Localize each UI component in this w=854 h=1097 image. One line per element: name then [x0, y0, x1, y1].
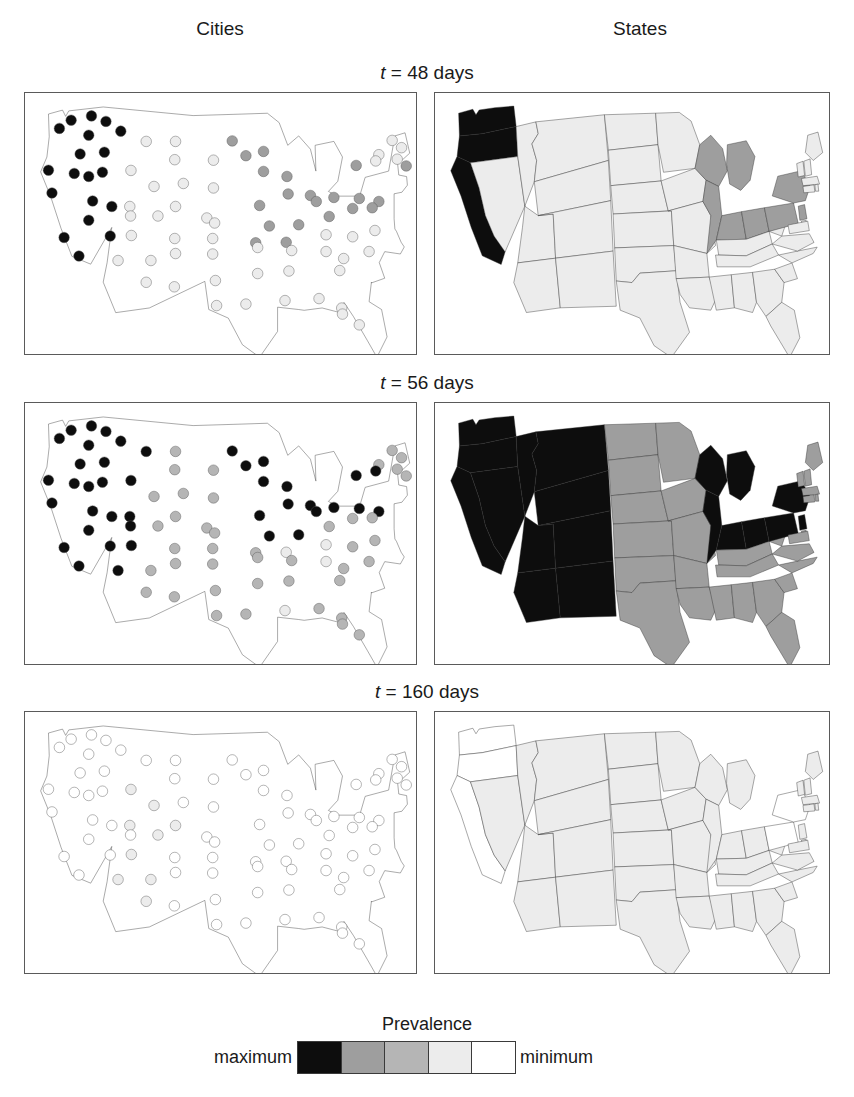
column-header-states: States: [540, 18, 740, 40]
state-nm: [556, 251, 617, 308]
city-marker: [207, 868, 218, 879]
city-marker: [211, 610, 222, 621]
city-marker: [282, 481, 293, 492]
city-marker: [69, 787, 80, 798]
city-marker: [153, 211, 164, 222]
city-marker: [178, 797, 189, 808]
city-marker: [367, 821, 378, 832]
city-marker: [264, 531, 275, 542]
us-outline: [41, 107, 410, 354]
city-marker: [329, 502, 340, 513]
state-va: [772, 234, 814, 251]
row-label-t56: t = 56 days: [0, 372, 854, 394]
legend-swatch-2: [342, 1042, 386, 1073]
us-cities-map: [25, 712, 416, 973]
city-marker: [401, 780, 412, 791]
city-marker: [87, 196, 98, 207]
city-marker: [99, 457, 110, 468]
city-marker: [208, 465, 219, 476]
city-marker: [210, 894, 221, 905]
state-ks: [613, 830, 674, 867]
state-vt: [797, 780, 805, 796]
state-nh: [804, 159, 812, 176]
city-marker: [105, 541, 116, 552]
city-marker: [74, 870, 85, 881]
map-panel-states-t48: [434, 92, 830, 355]
city-marker: [252, 887, 263, 898]
row-label-t160: t = 160 days: [0, 681, 854, 703]
city-marker: [354, 812, 365, 823]
city-marker: [141, 136, 152, 147]
legend-swatch-1: [298, 1042, 342, 1073]
city-marker: [252, 268, 263, 279]
state-me: [805, 751, 822, 779]
city-marker: [396, 142, 407, 153]
city-marker: [254, 510, 265, 521]
city-marker: [83, 525, 94, 536]
time-value-text: = 160 days: [380, 681, 479, 702]
city-marker: [169, 154, 180, 165]
city-marker: [99, 147, 110, 158]
city-marker: [178, 488, 189, 499]
city-marker: [367, 512, 378, 523]
city-marker: [370, 844, 381, 855]
city-marker: [227, 755, 238, 766]
city-marker: [321, 246, 332, 257]
city-marker: [101, 426, 112, 437]
us-states-map: [435, 403, 829, 664]
state-al: [731, 582, 756, 622]
city-marker: [208, 155, 219, 166]
city-marker: [210, 275, 221, 286]
state-ut: [518, 206, 556, 263]
state-mi: [727, 141, 755, 191]
city-marker: [86, 111, 97, 122]
figure-root: Cities States t = 48 days t = 56 days t …: [0, 0, 854, 1097]
city-marker: [241, 299, 252, 310]
city-marker: [258, 146, 269, 157]
state-mn: [656, 422, 700, 482]
city-marker: [227, 446, 238, 457]
city-marker: [252, 861, 263, 872]
city-marker: [209, 218, 220, 229]
city-marker: [367, 202, 378, 213]
city-marker: [116, 126, 127, 137]
city-marker: [116, 745, 127, 756]
city-marker: [324, 521, 335, 532]
city-marker: [324, 830, 335, 841]
city-marker: [280, 295, 291, 306]
city-marker: [284, 266, 295, 277]
city-marker: [252, 578, 263, 589]
state-ut: [518, 516, 556, 573]
city-marker: [207, 559, 218, 570]
state-sd: [608, 145, 661, 186]
city-marker: [338, 253, 349, 264]
city-marker: [311, 196, 322, 207]
city-marker: [347, 203, 358, 214]
legend: Prevalence maximum minimum: [0, 1014, 854, 1094]
row-label-t48: t = 48 days: [0, 62, 854, 84]
city-marker: [86, 421, 97, 432]
city-marker: [241, 150, 252, 161]
city-marker: [351, 160, 362, 171]
city-marker: [97, 786, 108, 797]
city-marker: [169, 464, 180, 475]
us-cities-map: [25, 93, 416, 354]
city-marker: [354, 193, 365, 204]
map-panel-states-t160: [434, 711, 830, 974]
city-marker: [210, 585, 221, 596]
city-marker: [329, 192, 340, 203]
city-marker: [107, 511, 118, 522]
city-marker: [105, 850, 116, 861]
state-az: [514, 568, 560, 622]
city-marker: [321, 539, 332, 550]
city-marker: [99, 766, 110, 777]
city-marker: [208, 774, 219, 785]
city-marker: [258, 456, 269, 467]
city-marker: [59, 542, 70, 553]
city-marker: [126, 475, 137, 486]
city-marker: [125, 830, 136, 841]
city-marker: [321, 865, 332, 876]
city-marker: [338, 872, 349, 883]
city-marker: [125, 201, 136, 212]
city-marker: [284, 576, 295, 587]
